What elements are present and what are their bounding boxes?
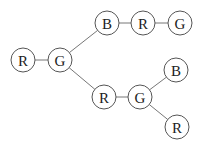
node-n7: G <box>128 85 152 109</box>
node-n9: R <box>165 115 189 139</box>
node-n2: G <box>48 48 72 72</box>
node-n3: B <box>95 11 119 35</box>
node-n1: R <box>11 48 35 72</box>
edge-n7-n8 <box>150 77 167 90</box>
edge-n7-n9 <box>149 105 167 120</box>
tree-diagram: RGBRGRGBR <box>0 0 205 147</box>
nodes: RGBRGRGBR <box>11 11 192 139</box>
node-label: R <box>138 16 148 32</box>
node-label: G <box>135 90 146 106</box>
node-label: B <box>102 16 112 32</box>
node-n8: B <box>164 58 188 82</box>
node-label: R <box>18 53 28 69</box>
node-n4: R <box>131 11 155 35</box>
node-n5: G <box>168 11 192 35</box>
node-label: G <box>175 16 186 32</box>
node-label: B <box>171 63 181 79</box>
edge-n2-n3 <box>69 30 97 52</box>
edge-n2-n6 <box>69 68 95 90</box>
node-label: G <box>55 53 66 69</box>
node-label: R <box>172 120 182 136</box>
node-n6: R <box>92 85 116 109</box>
node-label: R <box>99 90 109 106</box>
